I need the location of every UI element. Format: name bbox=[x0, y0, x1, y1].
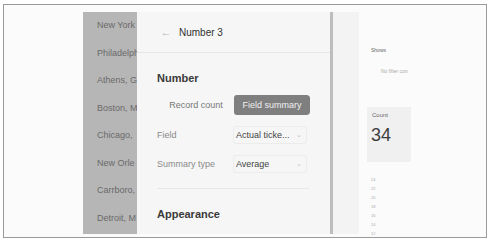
count-card[interactable]: Count 34 bbox=[367, 107, 411, 162]
axis-tick: 24 bbox=[371, 175, 375, 184]
field-select[interactable]: Actual ticke... ⌄ bbox=[233, 126, 307, 144]
list-item[interactable]: Boston, M bbox=[83, 95, 137, 123]
count-label: Count bbox=[372, 112, 388, 118]
field-summary-option[interactable]: Field summary bbox=[234, 95, 310, 115]
panel-header: ← Number 3 bbox=[137, 12, 330, 53]
record-count-option[interactable]: Record count bbox=[158, 95, 234, 115]
divider bbox=[157, 188, 309, 189]
axis-tick: 16 bbox=[371, 211, 375, 220]
arrow-left-icon: ← bbox=[161, 26, 172, 38]
app-frame: New York Philadelphia Athens, G Boston, … bbox=[3, 4, 487, 238]
list-item[interactable]: Philadelphia bbox=[83, 40, 137, 68]
summary-type-value: Average bbox=[236, 159, 269, 169]
field-label: Field bbox=[157, 130, 233, 140]
summary-type-label: Summary type bbox=[157, 159, 233, 169]
settings-panel: ← Number 3 Number Record count Field sum… bbox=[137, 12, 331, 234]
field-row: Field Actual ticke... ⌄ bbox=[157, 125, 309, 145]
shows-label: Shows bbox=[371, 47, 386, 53]
back-button[interactable]: ← bbox=[159, 25, 173, 39]
axis-tick: 14 bbox=[371, 220, 375, 229]
list-item[interactable]: Athens, G bbox=[83, 67, 137, 95]
axis-tick: 22 bbox=[371, 184, 375, 193]
count-value: 34 bbox=[371, 125, 391, 146]
chart-axis: 24 22 20 18 16 14 12 bbox=[371, 175, 375, 238]
summary-type-row: Summary type Average ⌄ bbox=[157, 154, 309, 174]
list-item[interactable]: Chicago, bbox=[83, 122, 137, 150]
panel-title: Number 3 bbox=[179, 27, 223, 38]
city-list: New York Philadelphia Athens, G Boston, … bbox=[83, 12, 137, 234]
list-item[interactable]: Detroit, M bbox=[83, 205, 137, 233]
axis-tick: 18 bbox=[371, 202, 375, 211]
summary-type-select[interactable]: Average ⌄ bbox=[233, 155, 307, 173]
list-item[interactable]: Carrboro, bbox=[83, 177, 137, 205]
section-title-appearance: Appearance bbox=[157, 208, 220, 220]
dashboard-preview: Shows No filter con Count 34 24 22 20 18… bbox=[359, 12, 485, 234]
chevron-down-icon: ⌄ bbox=[296, 131, 302, 139]
axis-tick: 20 bbox=[371, 193, 375, 202]
list-item[interactable]: New Orle bbox=[83, 150, 137, 178]
axis-tick: 12 bbox=[371, 229, 375, 238]
section-title-number: Number bbox=[157, 72, 199, 84]
gutter bbox=[333, 12, 359, 234]
summary-mode-toggle: Record count Field summary bbox=[158, 95, 310, 115]
filter-text: No filter con bbox=[381, 68, 408, 74]
list-item[interactable]: New York bbox=[83, 12, 137, 40]
field-select-value: Actual ticke... bbox=[236, 130, 290, 140]
chevron-down-icon: ⌄ bbox=[296, 160, 302, 168]
